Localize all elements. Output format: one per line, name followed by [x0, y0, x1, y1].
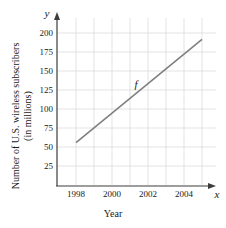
y-axis-title-line2: (in millions) [22, 29, 34, 204]
series-line-f [76, 39, 202, 142]
y-tick-label-150: 150 [40, 66, 54, 76]
y-axis-title-line1: Number of U.S. wireless subscribers [10, 29, 22, 204]
x-tick-label-2002: 2002 [139, 189, 157, 199]
y-axis-symbol: y [44, 7, 50, 19]
horizontal-gridlines [57, 33, 216, 166]
y-tick-label-50: 50 [44, 142, 54, 152]
series-label-f: f [134, 78, 139, 90]
vertical-gridlines [76, 18, 202, 185]
y-tick-labels: 200 175 150 125 100 75 50 25 [40, 28, 54, 171]
y-axis-arrowhead [54, 12, 60, 20]
x-axis-symbol: x [214, 188, 220, 200]
y-tick-label-175: 175 [40, 47, 54, 57]
chart-figure: y x 200 175 150 125 100 75 50 25 1998 20… [0, 0, 226, 228]
line-chart: y x 200 175 150 125 100 75 50 25 1998 20… [0, 0, 226, 228]
x-tick-label-1998: 1998 [67, 189, 86, 199]
x-axis-title: Year [0, 208, 226, 219]
y-tick-label-75: 75 [44, 123, 54, 133]
y-tick-label-25: 25 [44, 161, 54, 171]
y-tick-label-125: 125 [40, 85, 54, 95]
y-tick-label-100: 100 [40, 104, 54, 114]
x-tick-label-2004: 2004 [175, 189, 194, 199]
y-axis-title: Number of U.S. wireless subscribers (in … [10, 29, 34, 204]
y-tick-label-200: 200 [40, 28, 54, 38]
x-tick-label-2000: 2000 [103, 189, 122, 199]
x-tick-labels: 1998 2000 2002 2004 [67, 189, 194, 199]
